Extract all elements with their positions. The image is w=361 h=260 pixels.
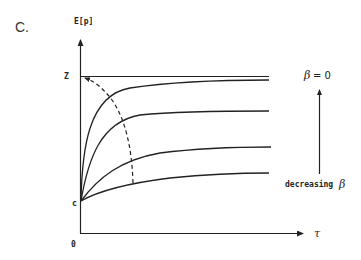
decreasing-label: decreasing	[285, 179, 333, 189]
panel-label: C.	[15, 19, 29, 35]
diagram-canvas: C. E[p] Z c 0 τ β = 0 decreasing β	[0, 0, 361, 260]
c-tick-label: c	[72, 199, 77, 208]
curve-1	[81, 80, 269, 201]
beta-symbol-bottom: β	[338, 178, 345, 191]
curve-4	[81, 173, 269, 201]
beta-symbol-top: β	[303, 69, 310, 82]
curve-2	[81, 111, 269, 201]
beta-zero-label: = 0	[313, 70, 331, 81]
y-axis-label: E[p]	[74, 17, 93, 26]
x-axis-label: τ	[314, 227, 321, 240]
z-tick-label: Z	[64, 72, 69, 81]
origin-label: 0	[71, 240, 76, 249]
